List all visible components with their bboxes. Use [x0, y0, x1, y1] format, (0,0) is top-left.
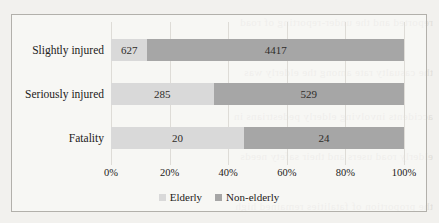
category-label: Slightly injured	[32, 39, 111, 61]
legend-item-elderly: Elderly	[159, 191, 202, 203]
bar-row: Seriously injured 285 529	[111, 83, 404, 105]
bar-segment-non-elderly: 529	[214, 83, 404, 105]
x-axis-tick: 40%	[219, 167, 238, 178]
x-axis-tick: 20%	[160, 167, 179, 178]
legend-label: Elderly	[170, 191, 202, 203]
legend-item-non-elderly: Non-elderly	[215, 191, 279, 203]
legend-swatch-icon	[159, 194, 166, 201]
category-label: Fatality	[69, 127, 111, 149]
gridline	[404, 22, 405, 165]
chart-container: Slightly injured 627 4417 Seriously inju…	[11, 14, 427, 212]
bar-segment-non-elderly: 4417	[147, 39, 404, 61]
bar-segment-elderly: 285	[111, 83, 214, 105]
legend-label: Non-elderly	[226, 191, 279, 203]
x-axis-tick: 60%	[277, 167, 296, 178]
x-axis-tick: 100%	[392, 167, 417, 178]
bar-row: Slightly injured 627 4417	[111, 39, 404, 61]
bar-segment-elderly: 20	[111, 127, 244, 149]
plot-area: Slightly injured 627 4417 Seriously inju…	[111, 22, 404, 165]
x-axis-tick: 0%	[104, 167, 118, 178]
bar-row: Fatality 20 24	[111, 127, 404, 149]
chart-legend: Elderly Non-elderly	[12, 191, 426, 203]
bar-segment-non-elderly: 24	[244, 127, 404, 149]
x-axis-tick: 80%	[336, 167, 355, 178]
x-axis: 0% 20% 40% 60% 80% 100%	[111, 167, 404, 183]
bar-segment-elderly: 627	[111, 39, 147, 61]
legend-swatch-icon	[215, 194, 222, 201]
category-label: Seriously injured	[25, 83, 111, 105]
